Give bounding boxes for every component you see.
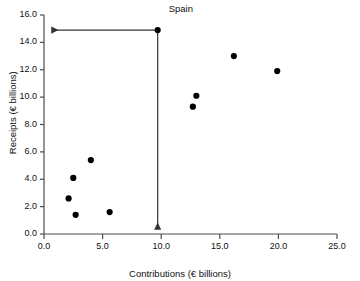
data-point xyxy=(73,212,79,218)
y-tick-label: 14.0 xyxy=(0,37,37,46)
data-point xyxy=(155,27,161,33)
x-axis-title: Contributions (€ billions) xyxy=(0,269,360,279)
y-tick-label: 10.0 xyxy=(0,92,37,101)
y-tick-label: 2.0 xyxy=(0,202,37,211)
y-tick-label: 16.0 xyxy=(0,10,37,19)
y-tick-label: 4.0 xyxy=(0,174,37,183)
data-point xyxy=(70,175,76,181)
x-tick-label: 5.0 xyxy=(83,242,123,251)
x-tick-label: 10.0 xyxy=(141,242,181,251)
y-tick-label: 6.0 xyxy=(0,147,37,156)
x-tick-label: 15.0 xyxy=(200,242,240,251)
x-tick-label: 0.0 xyxy=(24,242,64,251)
scatter-chart: 0.02.04.06.08.010.012.014.016.0 0.05.010… xyxy=(0,0,360,281)
data-point xyxy=(88,157,94,163)
y-axis-title: Receipts (€ billions) xyxy=(8,48,18,178)
data-point xyxy=(190,104,196,110)
data-point xyxy=(107,209,113,215)
data-point-series xyxy=(66,27,281,218)
y-tick-label: 12.0 xyxy=(0,65,37,74)
x-tick-label: 25.0 xyxy=(317,242,357,251)
data-point xyxy=(231,53,237,59)
axis-lines xyxy=(44,15,337,234)
spain-annotation-label: Spain xyxy=(169,4,193,14)
x-tick-label: 20.0 xyxy=(258,242,298,251)
data-point xyxy=(274,68,280,74)
y-tick-label: 0.0 xyxy=(0,229,37,238)
y-tick-label: 8.0 xyxy=(0,120,37,129)
plot-area xyxy=(0,0,360,281)
x-axis-ticks xyxy=(44,234,337,239)
data-point xyxy=(66,195,72,201)
data-point xyxy=(193,93,199,99)
